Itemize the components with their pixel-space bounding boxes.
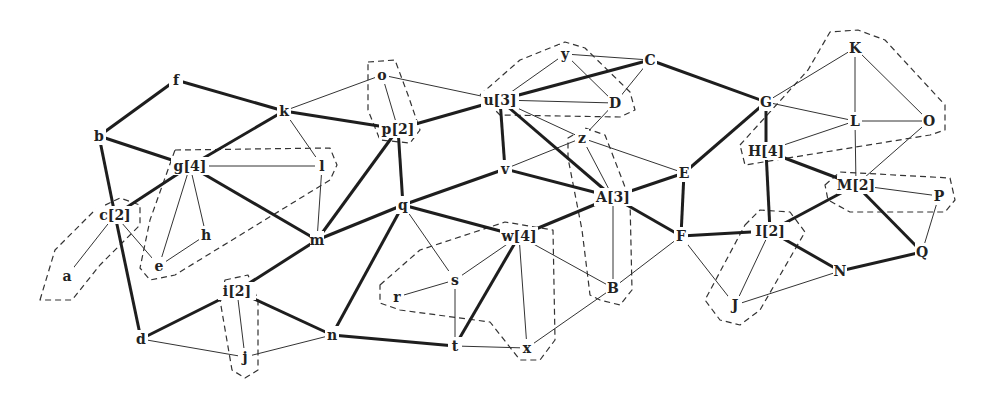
node-label: G xyxy=(760,94,772,110)
node-label: i[2] xyxy=(223,283,251,299)
node-label: F xyxy=(676,228,686,244)
node-F: F xyxy=(674,227,688,245)
node-label: e xyxy=(155,258,164,274)
node-B: B xyxy=(606,279,620,297)
node-q: q xyxy=(396,196,410,214)
node-M: M[2] xyxy=(837,176,876,194)
node-i: i[2] xyxy=(218,282,256,300)
node-J: J xyxy=(728,296,742,314)
edge-thick-q-v xyxy=(403,169,505,205)
node-label: s xyxy=(451,272,459,288)
node-G: G xyxy=(759,93,773,111)
node-label: D xyxy=(609,95,621,111)
edge-thin-k-o xyxy=(284,75,382,111)
node-label: Q xyxy=(916,244,928,260)
node-L: L xyxy=(848,112,862,130)
edge-thin-d-j xyxy=(141,339,245,357)
node-label: b xyxy=(94,128,104,144)
edge-thin-B-x xyxy=(527,288,613,348)
cluster-g xyxy=(140,148,337,280)
node-label: L xyxy=(850,113,860,129)
node-a: a xyxy=(60,267,74,285)
node-label: M[2] xyxy=(837,177,876,193)
node-label: n xyxy=(327,327,337,343)
edge-thick-f-b xyxy=(99,80,176,136)
edge-thick-M-Q xyxy=(856,185,922,252)
edge-thin-s-r xyxy=(397,280,455,297)
node-label: a xyxy=(62,268,71,284)
node-label: l xyxy=(319,158,324,174)
edge-thick-c-d xyxy=(115,215,141,339)
edge-thick-H-I xyxy=(766,151,770,231)
node-f: f xyxy=(169,71,183,89)
edge-thin-I-J xyxy=(735,231,770,305)
node-t: t xyxy=(448,337,462,355)
edge-thick-C-G xyxy=(650,60,766,102)
node-N: N xyxy=(833,262,847,280)
node-r: r xyxy=(390,288,404,306)
node-k: k xyxy=(277,102,291,120)
edge-thin-e-h xyxy=(159,235,206,266)
edge-thick-N-Q xyxy=(840,252,922,271)
node-label: A[3] xyxy=(595,189,630,205)
edge-thick-n-q xyxy=(332,205,403,335)
node-C: C xyxy=(643,51,657,69)
node-label: t xyxy=(452,338,459,354)
edge-thin-l-m xyxy=(317,166,322,240)
node-label: h xyxy=(201,227,211,243)
node-h: h xyxy=(199,226,213,244)
edge-thick-u-C xyxy=(500,60,650,100)
node-label: d xyxy=(136,331,146,347)
edge-thin-j-n xyxy=(245,335,332,357)
node-label: I[2] xyxy=(755,223,785,239)
node-label: p[2] xyxy=(382,121,415,137)
edge-thick-w-t xyxy=(455,236,519,346)
edge-thin-z-v xyxy=(505,138,582,169)
node-label: x xyxy=(523,340,532,356)
node-label: N xyxy=(834,263,847,279)
node-label: j xyxy=(240,349,247,365)
node-label: K xyxy=(849,40,862,56)
node-P: P xyxy=(932,187,946,205)
node-label: w[4] xyxy=(500,228,536,244)
node-m: m xyxy=(310,231,325,249)
node-label: C xyxy=(644,52,655,68)
node-label: y xyxy=(560,46,570,62)
edge-thin-B-F xyxy=(613,236,681,288)
node-l: l xyxy=(315,157,329,175)
node-v: v xyxy=(498,160,512,178)
edge-thin-y-C xyxy=(565,54,650,60)
edge-thin-g-h xyxy=(190,166,206,235)
node-label: m xyxy=(310,232,325,248)
graph-diagram: fkbg[4]lc[2]heami[2]djnop[2]qu[3]yCDzvA[… xyxy=(0,0,993,400)
node-b: b xyxy=(92,127,106,145)
edge-thin-G-K xyxy=(766,48,855,102)
edge-thin-K-O xyxy=(855,48,929,121)
node-j: j xyxy=(238,348,252,366)
node-A: A[3] xyxy=(594,188,632,206)
edge-thin-i-j xyxy=(237,291,245,357)
node-E: E xyxy=(677,164,691,182)
node-label: v xyxy=(500,161,510,177)
node-label: q xyxy=(398,197,408,213)
edge-thin-c-a xyxy=(67,215,115,276)
edge-thick-E-F xyxy=(681,173,684,236)
node-label: u[3] xyxy=(483,92,516,108)
node-y: y xyxy=(558,45,572,63)
node-u: u[3] xyxy=(481,91,519,109)
node-I: I[2] xyxy=(751,222,789,240)
edge-thin-y-D xyxy=(565,54,615,103)
node-s: s xyxy=(448,271,462,289)
node-o: o xyxy=(375,66,389,84)
node-label: E xyxy=(679,165,690,181)
node-d: d xyxy=(134,330,148,348)
node-g: g[4] xyxy=(171,157,209,175)
edge-thick-p-q xyxy=(398,129,403,205)
node-label: z xyxy=(578,130,586,146)
node-Q: Q xyxy=(915,243,929,261)
node-D: D xyxy=(608,94,622,112)
node-label: g[4] xyxy=(174,158,207,174)
node-w: w[4] xyxy=(500,227,538,245)
edge-thick-n-t xyxy=(332,335,455,346)
node-H: H[4] xyxy=(747,142,785,160)
